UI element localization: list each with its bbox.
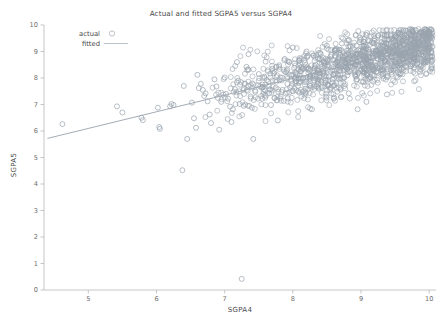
scatter-point	[195, 72, 200, 77]
scatter-point	[251, 67, 256, 72]
y-tick-label: 4	[34, 180, 38, 188]
y-tick-label: 7	[34, 101, 38, 109]
y-tick-label: 2	[34, 233, 38, 241]
scatter-point	[180, 168, 185, 173]
scatter-point	[296, 115, 301, 120]
scatter-point	[375, 88, 380, 93]
scatter-point	[327, 37, 332, 42]
scatter-point	[263, 119, 268, 124]
scatter-point	[215, 108, 220, 113]
scatter-point	[347, 96, 352, 101]
x-tick-label: 7	[223, 295, 227, 303]
x-tick-label: 10	[425, 295, 433, 303]
y-axis-label: SGPA5	[10, 153, 18, 177]
scatter-point	[296, 109, 301, 114]
y-tick-label: 10	[30, 21, 38, 29]
scatter-point	[252, 106, 257, 111]
y-tick-label: 6	[34, 127, 38, 135]
scatter-point	[185, 136, 190, 141]
x-tick-label: 5	[86, 295, 90, 303]
scatter-point	[191, 116, 196, 121]
chart-legend: actual fitted	[79, 30, 128, 48]
scatter-point	[217, 127, 222, 132]
scatter-point	[285, 44, 290, 49]
scatter-point	[399, 89, 404, 94]
scatter-point	[368, 91, 373, 96]
scatter-point	[384, 92, 389, 97]
scatter-plot: 012345678910 5678910 SGPA5 SGPA4 actual …	[0, 0, 442, 325]
scatter-point	[212, 77, 217, 82]
scatter-point	[265, 49, 270, 54]
scatter-point	[269, 43, 274, 48]
scatter-point	[251, 136, 256, 141]
y-tick-label: 0	[34, 286, 38, 294]
scatter-point	[255, 49, 260, 54]
scatter-point	[333, 41, 338, 46]
y-tick-label: 9	[34, 48, 38, 56]
legend-item-fitted: fitted	[82, 40, 100, 48]
scatter-point	[327, 103, 332, 108]
scatter-point	[401, 79, 406, 84]
scatter-point	[221, 77, 226, 82]
scatter-point	[275, 118, 280, 123]
scatter-point	[155, 105, 160, 110]
scatter-point	[295, 97, 300, 102]
scatter-point	[114, 104, 119, 109]
scatter-point	[250, 74, 255, 79]
scatter-point	[390, 90, 395, 95]
legend-item-actual: actual	[79, 30, 100, 38]
y-tick-label: 5	[34, 154, 38, 162]
x-tick-label: 8	[291, 295, 295, 303]
scatter-point	[238, 54, 243, 59]
scatter-point	[239, 276, 244, 281]
scatter-point	[194, 125, 199, 130]
scatter-point	[288, 100, 293, 105]
legend-marker-circle-icon	[109, 31, 114, 36]
scatter-point	[198, 81, 203, 86]
y-tick-label: 8	[34, 74, 38, 82]
x-axis-ticks: 5678910	[86, 290, 433, 303]
chart-container: Actual and fitted SGPA5 versus SGPA4 012…	[0, 0, 442, 325]
scatter-point	[228, 75, 233, 80]
y-axis-ticks: 012345678910	[30, 21, 44, 294]
x-axis-label: SGPA4	[228, 306, 253, 314]
y-tick-label: 1	[34, 260, 38, 268]
scatter-point	[181, 83, 186, 88]
scatter-point	[364, 99, 369, 104]
actual-points	[60, 27, 435, 282]
x-tick-label: 9	[359, 295, 363, 303]
scatter-point	[418, 73, 423, 78]
x-tick-label: 6	[154, 295, 158, 303]
scatter-point	[318, 34, 323, 39]
scatter-point	[416, 87, 421, 92]
scatter-point	[355, 107, 360, 112]
scatter-point	[200, 87, 205, 92]
scatter-point	[269, 103, 274, 108]
scatter-point	[340, 36, 345, 41]
scatter-point	[209, 121, 214, 126]
scatter-point	[412, 79, 417, 84]
scatter-point	[225, 117, 230, 122]
scatter-point	[248, 47, 253, 52]
y-tick-label: 3	[34, 207, 38, 215]
scatter-point	[355, 95, 360, 100]
scatter-point	[346, 91, 351, 96]
scatter-point	[120, 110, 125, 115]
scatter-point	[241, 45, 246, 50]
scatter-point	[203, 115, 208, 120]
scatter-point	[238, 94, 243, 99]
scatter-point	[230, 67, 235, 72]
scatter-point	[286, 110, 291, 115]
scatter-point	[60, 122, 65, 127]
scatter-point	[269, 111, 274, 116]
scatter-point	[319, 98, 324, 103]
